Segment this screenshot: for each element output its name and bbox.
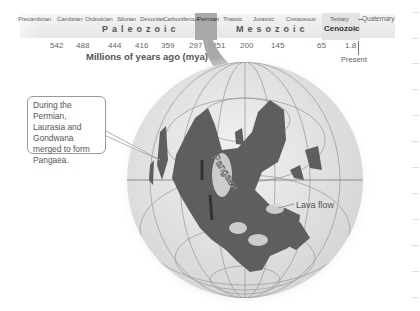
margin-ticks xyxy=(412,0,420,311)
lava-flow-label: Lava flow xyxy=(296,200,334,210)
callout-box: During the Permian, Laurasia and Gondwan… xyxy=(27,96,106,154)
